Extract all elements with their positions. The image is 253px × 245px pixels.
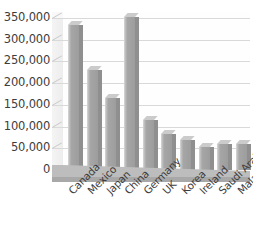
bar-side-face <box>135 17 139 170</box>
y-axis-tick-label: 0 <box>0 164 50 176</box>
y-axis-tick-label: 350,000 <box>0 12 50 24</box>
bar-front-face <box>87 70 98 170</box>
bar-mexico <box>87 66 98 170</box>
bar-canada <box>68 21 79 170</box>
bar-side-face <box>79 25 83 170</box>
y-axis-tick-label: 150,000 <box>0 99 50 111</box>
y-axis-tick-label: 200,000 <box>0 77 50 89</box>
bar-series <box>63 12 250 170</box>
bar-side-face <box>116 98 120 170</box>
bar-front-face <box>68 25 79 170</box>
y-axis-tick-label: 100,000 <box>0 121 50 133</box>
bar-chart: 350,000300,000250,000200,000150,000100,0… <box>0 0 253 245</box>
y-axis-tick-label: 250,000 <box>0 55 50 67</box>
bar-front-face <box>124 17 135 170</box>
bar-germany <box>143 116 154 170</box>
y-axis-tick-label: 50,000 <box>0 142 50 154</box>
y-axis: 350,000300,000250,000200,000150,000100,0… <box>0 0 50 245</box>
plot-area <box>52 12 250 182</box>
y-axis-tick-label: 300,000 <box>0 34 50 46</box>
bar-side-face <box>154 120 158 170</box>
x-axis-labels: CanadaMexicoJapanChinaGermanyUKKoreaIrel… <box>52 186 253 245</box>
bar-china <box>124 13 135 170</box>
bar-front-face <box>143 120 154 170</box>
bar-front-face <box>105 98 116 170</box>
bar-japan <box>105 94 116 170</box>
bar-side-face <box>98 70 102 170</box>
